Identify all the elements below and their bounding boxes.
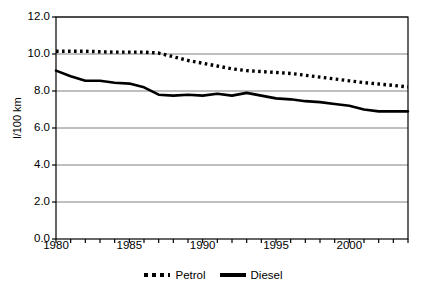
fuel-consumption-chart: l/100 km 12.010.08.06.04.02.00.0 1980198…: [0, 0, 427, 295]
legend-swatch-solid-icon: [220, 270, 246, 280]
legend-item-petrol: Petrol: [144, 268, 205, 281]
legend-item-diesel: Diesel: [220, 268, 283, 281]
chart-legend: PetrolDiesel: [0, 268, 427, 281]
legend-label: Diesel: [251, 269, 283, 281]
plot-area: [0, 0, 427, 295]
legend-label: Petrol: [175, 269, 205, 281]
legend-swatch-dotted-icon: [144, 270, 170, 280]
